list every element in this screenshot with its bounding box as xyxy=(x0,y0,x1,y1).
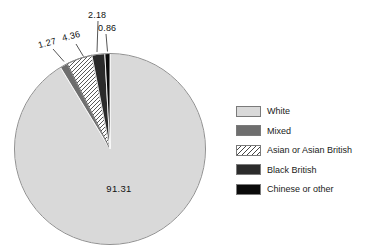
legend-item-black-british: Black British xyxy=(236,165,352,175)
slice-callout-label-black-british: 2.18 xyxy=(88,10,106,20)
slice-value-label-white: 91.31 xyxy=(103,183,135,194)
legend-swatch-mixed xyxy=(236,125,261,136)
legend-swatch-black-british xyxy=(236,164,261,175)
leader-line-mixed xyxy=(53,49,64,62)
legend: White Mixed Asian or Asian British Black… xyxy=(236,106,352,204)
legend-label-white: White xyxy=(267,106,290,116)
legend-item-chinese-or-other: Chinese or other xyxy=(236,184,352,194)
legend-swatch-asian-or-asian-british xyxy=(236,145,261,156)
legend-label-mixed: Mixed xyxy=(267,126,291,136)
leader-line-asian-or-asian-british xyxy=(76,44,84,57)
slice-callout-label-chinese-or-other: 0.86 xyxy=(98,23,116,33)
legend-swatch-chinese-or-other xyxy=(236,184,261,195)
legend-item-white: White xyxy=(236,106,352,116)
legend-item-asian-or-asian-british: Asian or Asian British xyxy=(236,145,352,155)
leader-line-chinese-or-other xyxy=(106,34,108,52)
legend-label-chinese-or-other: Chinese or other xyxy=(267,184,334,194)
legend-label-asian-or-asian-british: Asian or Asian British xyxy=(267,145,352,155)
legend-item-mixed: Mixed xyxy=(236,126,352,136)
legend-swatch-white xyxy=(236,106,261,117)
legend-label-black-british: Black British xyxy=(267,165,317,175)
pie-slices-group xyxy=(15,54,206,245)
pie-chart-figure: 1.27 4.36 2.18 0.86 91.31 White Mixed As… xyxy=(0,0,371,252)
